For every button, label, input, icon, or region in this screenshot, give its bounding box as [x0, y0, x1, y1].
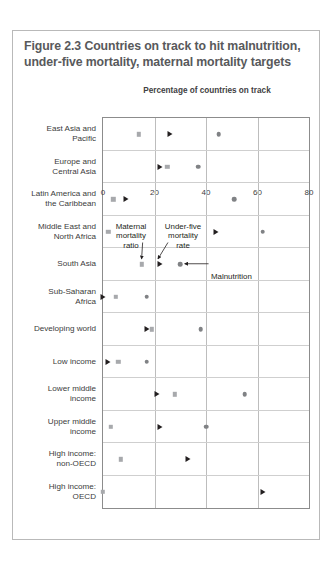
data-point-square [116, 360, 120, 364]
data-point-circle [232, 197, 237, 202]
data-point-square [165, 165, 169, 169]
data-point-circle [204, 424, 209, 429]
data-point-square [173, 392, 177, 396]
data-point-triangle [155, 391, 160, 397]
chart-row: Low income [103, 346, 309, 379]
data-point-circle [196, 164, 201, 169]
row-label: Europe and Central Asia [1, 157, 96, 177]
chart-row: High income: non-OECD [103, 443, 309, 476]
data-point-circle [144, 294, 149, 299]
data-point-triangle [260, 489, 265, 495]
data-point-triangle [157, 164, 162, 170]
row-label: South Asia [1, 259, 96, 269]
plot-area: 020406080East Asia and PacificEurope and… [102, 117, 310, 509]
row-label: Middle East and North Africa [1, 222, 96, 242]
row-label: High income: non-OECD [1, 449, 96, 469]
row-label: Lower middle income [1, 384, 96, 404]
data-point-triangle [106, 359, 111, 365]
data-point-square [137, 132, 141, 136]
data-point-triangle [157, 424, 162, 430]
data-point-circle [217, 132, 222, 137]
data-point-square [114, 295, 118, 299]
annotation-layer: Maternal mortality ratioUnder-five morta… [103, 216, 309, 281]
row-label: East Asia and Pacific [1, 124, 96, 144]
chart-row: Sub-Saharan Africa [103, 281, 309, 314]
data-point-square [119, 457, 123, 461]
row-label: Latin America and the Caribbean [1, 189, 96, 209]
figure-card: Figure 2.3 Countries on track to hit mal… [12, 30, 320, 540]
chart-row: Upper middle income [103, 411, 309, 444]
chart-row: Lower middle income [103, 378, 309, 411]
row-label: High income: OECD [1, 482, 96, 502]
data-point-triangle [144, 326, 149, 332]
data-point-triangle [124, 196, 129, 202]
chart-row: Latin America and the Caribbean [103, 183, 309, 216]
plot-wrapper: 020406080East Asia and PacificEurope and… [13, 31, 319, 539]
data-point-square [150, 327, 154, 331]
data-point-square [111, 197, 115, 201]
chart-row: High income: OECD [103, 476, 309, 509]
data-point-triangle [185, 456, 190, 462]
data-point-circle [144, 359, 149, 364]
row-label: Sub-Saharan Africa [1, 287, 96, 307]
row-label: Low income [1, 357, 96, 367]
data-point-circle [199, 327, 204, 332]
chart-row: East Asia and Pacific [103, 118, 309, 151]
data-point-triangle [101, 294, 106, 300]
chart-row: Developing world [103, 313, 309, 346]
data-point-square [101, 490, 105, 494]
annotation-arrows [103, 216, 309, 281]
chart-row: Europe and Central Asia [103, 151, 309, 184]
data-point-circle [242, 392, 247, 397]
row-label: Developing world [1, 324, 96, 334]
row-label: Upper middle income [1, 417, 96, 437]
data-point-square [109, 425, 113, 429]
data-point-triangle [167, 131, 172, 137]
